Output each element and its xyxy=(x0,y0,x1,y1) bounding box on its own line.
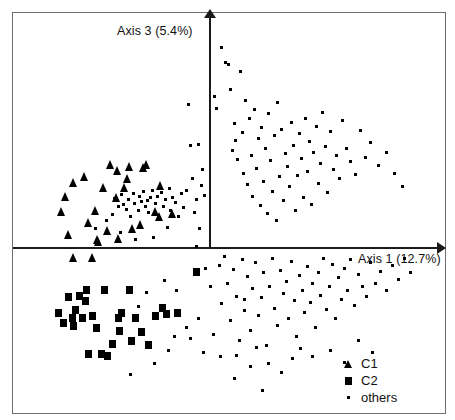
data-point-c2 xyxy=(126,286,133,294)
data-point-others xyxy=(219,355,222,358)
data-point-others xyxy=(385,151,388,154)
data-point-c1 xyxy=(80,172,88,181)
data-point-others xyxy=(189,337,192,340)
data-point-others xyxy=(285,280,288,283)
data-point-others xyxy=(226,282,229,285)
data-point-others xyxy=(288,185,291,188)
data-point-others xyxy=(337,276,340,279)
data-point-others xyxy=(166,226,169,229)
data-point-others xyxy=(177,215,180,218)
data-point-others xyxy=(239,70,242,73)
data-point-others xyxy=(315,125,318,128)
data-point-others xyxy=(276,324,279,327)
data-point-others xyxy=(242,172,245,175)
data-point-others xyxy=(189,144,192,147)
data-point-others xyxy=(357,273,360,276)
data-point-others xyxy=(157,218,160,221)
data-point-others xyxy=(403,257,406,260)
data-point-others xyxy=(278,175,281,178)
data-point-others xyxy=(132,192,135,195)
data-point-others xyxy=(290,260,293,263)
data-point-others xyxy=(134,238,137,241)
data-point-others xyxy=(332,168,335,171)
data-point-others xyxy=(298,274,301,277)
data-point-others xyxy=(317,271,320,274)
data-point-others xyxy=(267,112,270,115)
data-point-others xyxy=(198,227,201,230)
data-point-others xyxy=(120,193,123,196)
data-point-others xyxy=(341,119,344,122)
data-point-c2 xyxy=(55,309,62,317)
data-point-others xyxy=(280,128,283,131)
data-point-others xyxy=(243,309,246,312)
data-point-others xyxy=(379,270,382,273)
data-point-c2 xyxy=(60,319,67,327)
data-point-others xyxy=(306,170,309,173)
data-point-others xyxy=(251,195,254,198)
data-point-others xyxy=(234,139,237,142)
data-point-others xyxy=(227,63,230,66)
data-point-others xyxy=(238,339,241,342)
data-point-others xyxy=(300,157,303,160)
data-point-others xyxy=(144,205,147,208)
data-point-c1 xyxy=(123,174,131,183)
data-point-c2 xyxy=(85,350,92,358)
data-point-others xyxy=(251,287,254,290)
x-axis-line xyxy=(13,247,440,249)
data-point-others xyxy=(293,299,296,302)
data-point-others xyxy=(241,131,244,134)
triangle-marker-icon xyxy=(340,360,356,368)
data-point-others xyxy=(284,152,287,155)
data-point-others xyxy=(147,211,150,214)
data-point-others xyxy=(248,117,251,120)
data-point-c1 xyxy=(114,234,122,243)
data-point-others xyxy=(257,137,260,140)
data-point-others xyxy=(391,264,394,267)
data-point-others xyxy=(167,349,170,352)
data-point-others xyxy=(193,211,196,214)
data-point-others xyxy=(127,198,130,201)
data-point-c1 xyxy=(84,218,92,227)
data-point-others xyxy=(111,213,114,216)
data-point-others xyxy=(212,333,215,336)
data-point-c1 xyxy=(136,220,144,229)
data-point-others xyxy=(220,302,223,305)
data-point-others xyxy=(197,143,200,146)
data-point-others xyxy=(328,285,331,288)
data-point-c2 xyxy=(138,328,145,336)
data-point-c1 xyxy=(103,226,111,235)
data-point-others xyxy=(117,205,120,208)
data-point-others xyxy=(145,291,148,294)
data-point-others xyxy=(401,185,404,188)
data-point-others xyxy=(331,263,334,266)
data-point-others xyxy=(298,132,301,135)
data-point-others xyxy=(374,282,377,285)
data-point-others xyxy=(264,147,267,150)
data-point-others xyxy=(160,191,163,194)
data-point-others xyxy=(349,258,352,261)
data-point-others xyxy=(249,329,252,332)
data-point-others xyxy=(371,351,374,354)
data-point-others xyxy=(334,317,337,320)
data-point-c1 xyxy=(88,253,96,262)
data-point-c2 xyxy=(82,297,89,305)
data-point-others xyxy=(273,134,276,137)
data-point-others xyxy=(185,189,188,192)
data-point-c2 xyxy=(152,312,159,320)
data-point-c1 xyxy=(125,162,133,171)
data-point-others xyxy=(156,195,159,198)
data-point-others xyxy=(311,282,314,285)
data-point-c1 xyxy=(64,230,72,239)
data-point-others xyxy=(335,154,338,157)
data-point-c1 xyxy=(120,183,128,192)
data-point-others xyxy=(164,198,167,201)
data-point-others xyxy=(309,301,312,304)
legend: C1 C2 others xyxy=(340,355,436,406)
data-point-others xyxy=(191,177,194,180)
data-point-others xyxy=(260,296,263,299)
data-point-others xyxy=(215,107,218,110)
data-point-others xyxy=(142,190,145,193)
data-point-others xyxy=(235,354,238,357)
data-point-others xyxy=(218,264,221,267)
data-point-others xyxy=(273,307,276,310)
